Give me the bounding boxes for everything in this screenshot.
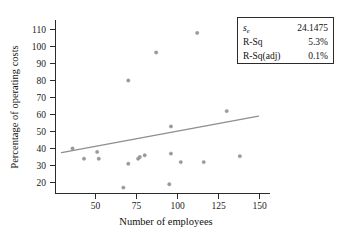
scatter-plot-figure: 110 100 90 80 70 60 50 40 30 20 50 75 10… — [0, 0, 343, 236]
y-tick-label: 80 — [37, 76, 47, 86]
data-points-group — [71, 31, 242, 189]
y-tick-label: 90 — [37, 59, 47, 69]
data-point — [238, 154, 241, 157]
data-point — [195, 31, 198, 34]
y-tick-label: 110 — [32, 25, 46, 35]
statistics-legend: se 24.1475 R-Sq 5.3% R-Sq(adj) 0.1% — [238, 18, 334, 64]
data-point — [169, 125, 172, 128]
x-tick-label: 125 — [211, 201, 226, 211]
data-point — [127, 162, 130, 165]
y-tick-label: 60 — [37, 110, 47, 120]
y-axis-ticks — [50, 30, 55, 183]
y-tick-label: 30 — [37, 161, 47, 171]
data-point — [95, 150, 98, 153]
y-tick-label: 100 — [32, 42, 47, 52]
y-tick-label: 50 — [37, 127, 47, 137]
chart-canvas: 110 100 90 80 70 60 50 40 30 20 50 75 10… — [0, 0, 343, 236]
data-point — [127, 79, 130, 82]
data-point — [138, 155, 141, 158]
x-tick-label: 150 — [252, 201, 267, 211]
legend-label-rsq-adj: R-Sq(adj) — [243, 51, 280, 62]
legend-label-rsq: R-Sq — [243, 37, 263, 47]
data-point — [82, 157, 85, 160]
data-point — [154, 51, 157, 54]
data-point — [169, 152, 172, 155]
x-axis-tick-labels: 50 75 100 125 150 — [91, 201, 267, 211]
data-point — [168, 183, 171, 186]
y-axis-tick-labels: 110 100 90 80 70 60 50 40 30 20 — [32, 25, 47, 188]
regression-line — [62, 116, 259, 153]
x-axis-title: Number of employees — [119, 216, 212, 227]
data-point — [179, 160, 182, 163]
legend-value-rsq-adj: 0.1% — [308, 51, 328, 61]
x-tick-label: 100 — [170, 201, 185, 211]
y-tick-label: 70 — [37, 93, 47, 103]
legend-value-se: 24.1475 — [297, 23, 328, 33]
data-point — [97, 157, 100, 160]
data-point — [143, 154, 146, 157]
data-point — [71, 147, 74, 150]
x-tick-label: 50 — [91, 201, 101, 211]
y-tick-label: 40 — [37, 144, 47, 154]
y-axis-title: Percentage of operating costs — [9, 45, 20, 168]
legend-value-rsq: 5.3% — [308, 37, 328, 47]
x-axis-ticks — [96, 194, 260, 199]
data-point — [202, 160, 205, 163]
x-tick-label: 75 — [132, 201, 142, 211]
data-point — [122, 186, 125, 189]
y-tick-label: 20 — [37, 178, 47, 188]
data-point — [225, 109, 228, 112]
